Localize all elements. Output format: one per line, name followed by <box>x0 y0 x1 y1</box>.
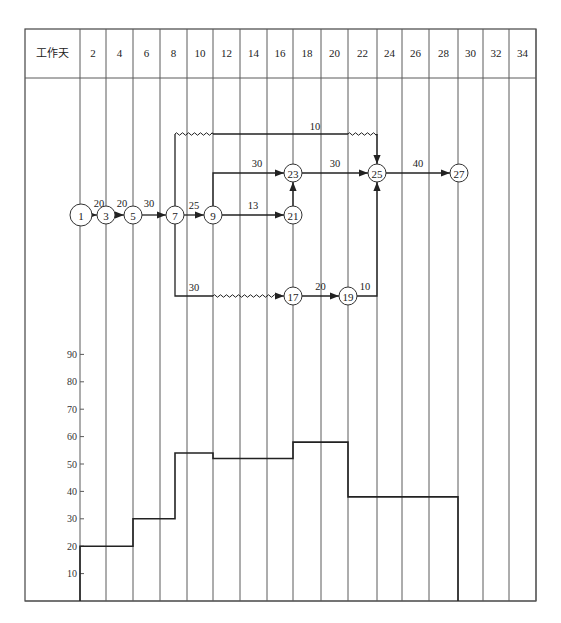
event-node: 3 <box>97 206 115 224</box>
node-number: 25 <box>372 168 384 180</box>
day-header: 10 <box>195 47 207 59</box>
day-header: 8 <box>171 47 177 59</box>
resource-histogram: 102030405060708090 <box>25 349 536 601</box>
day-header: 14 <box>248 47 260 59</box>
activity-duration-label: 13 <box>248 200 259 211</box>
header-row-label: 工作天 <box>36 47 69 59</box>
day-header: 18 <box>302 47 314 59</box>
day-header: 32 <box>491 47 502 59</box>
node-number: 21 <box>288 210 299 222</box>
node-number: 3 <box>103 210 109 222</box>
event-node: 5 <box>124 206 142 224</box>
node-number: 17 <box>288 291 300 303</box>
grid-border <box>25 29 536 601</box>
node-number: 19 <box>343 291 355 303</box>
day-header: 4 <box>117 47 123 59</box>
activity-duration-label: 30 <box>189 282 200 293</box>
y-tick-label: 40 <box>67 486 77 497</box>
day-header: 20 <box>329 47 341 59</box>
y-tick-label: 70 <box>67 404 77 415</box>
node-number: 9 <box>210 210 216 222</box>
event-node: 1 <box>70 204 92 226</box>
node-number: 23 <box>288 168 300 180</box>
event-node: 19 <box>339 287 357 305</box>
event-node: 27 <box>450 164 468 182</box>
activity-duration-label: 20 <box>117 198 128 209</box>
activity-arrow <box>357 182 377 296</box>
y-tick-label: 30 <box>67 513 77 524</box>
network-resource-diagram: 工作天 246810121416182022242628303234 20203… <box>0 0 561 623</box>
y-tick-label: 60 <box>67 431 77 442</box>
activity-duration-label: 30 <box>330 158 341 169</box>
day-header: 28 <box>438 47 450 59</box>
day-header: 30 <box>465 47 477 59</box>
network-diagram: 2020302513303040103020101357921232527171… <box>70 121 468 305</box>
event-node: 25 <box>368 164 386 182</box>
day-header: 16 <box>275 47 287 59</box>
activity-duration-label: 30 <box>144 198 155 209</box>
activity-duration-label: 20 <box>315 281 326 292</box>
node-number: 27 <box>454 168 466 180</box>
y-tick-label: 20 <box>67 541 77 552</box>
day-header: 24 <box>384 47 396 59</box>
activity-duration-label: 30 <box>252 158 263 169</box>
event-node: 9 <box>204 206 222 224</box>
activity-duration-label: 10 <box>360 281 371 292</box>
activity-duration-label: 25 <box>189 200 200 211</box>
y-tick-label: 50 <box>67 459 77 470</box>
activity-arrow <box>175 133 377 206</box>
node-number: 7 <box>172 210 178 222</box>
day-header: 6 <box>144 47 150 59</box>
event-node: 21 <box>284 206 302 224</box>
resource-step-line <box>80 442 458 601</box>
node-number: 5 <box>130 210 136 222</box>
time-grid <box>25 29 536 601</box>
y-tick-label: 80 <box>67 376 77 387</box>
event-node: 17 <box>284 287 302 305</box>
node-number: 1 <box>78 210 84 222</box>
header-row: 工作天 246810121416182022242628303234 <box>36 47 529 59</box>
activity-duration-label: 40 <box>413 158 424 169</box>
day-header: 34 <box>517 47 529 59</box>
y-tick-label: 10 <box>67 568 77 579</box>
event-node: 23 <box>284 164 302 182</box>
day-header: 26 <box>410 47 422 59</box>
y-tick-label: 90 <box>67 349 77 360</box>
event-node: 7 <box>166 206 184 224</box>
activity-duration-label: 10 <box>310 121 321 132</box>
day-header: 12 <box>221 47 232 59</box>
day-header: 2 <box>90 47 96 59</box>
day-header: 22 <box>357 47 368 59</box>
